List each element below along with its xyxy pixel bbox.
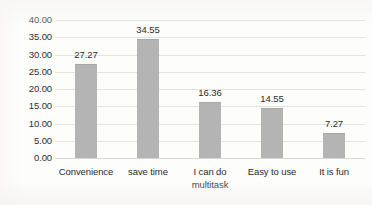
y-axis-tick-label: 40.00 — [8, 15, 52, 25]
bar-group: 16.36 — [179, 20, 241, 158]
bar — [199, 102, 221, 158]
bar — [137, 39, 159, 158]
y-axis-tick-label: 0.00 — [8, 153, 52, 163]
y-axis-tick-label: 10.00 — [8, 119, 52, 129]
y-axis-tick-label: 20.00 — [8, 84, 52, 94]
x-axis-category-labels: Conveniencesave timeI can do multitaskEa… — [55, 166, 365, 204]
bar-chart: 0.005.0010.0015.0020.0025.0030.0035.0040… — [0, 0, 372, 205]
axis-baseline — [55, 158, 365, 159]
y-axis: 0.005.0010.0015.0020.0025.0030.0035.0040… — [0, 0, 52, 205]
bar-group: 34.55 — [117, 20, 179, 158]
x-axis-tick-label: Easy to use — [241, 166, 303, 179]
y-axis-tick-label: 5.00 — [8, 136, 52, 146]
bar-value-label: 34.55 — [136, 25, 159, 35]
bar — [323, 133, 345, 158]
y-axis-tick-label: 35.00 — [8, 33, 52, 43]
bar-group: 27.27 — [55, 20, 117, 158]
bars-group: 27.2734.5516.3614.557.27 — [55, 20, 365, 158]
y-axis-tick-label: 30.00 — [8, 50, 52, 60]
y-axis-tick-label: 25.00 — [8, 67, 52, 77]
x-axis-tick-label: It is fun — [303, 166, 365, 179]
bar-value-label: 27.27 — [74, 50, 97, 60]
x-axis-tick-label: save time — [117, 166, 179, 179]
bar — [75, 64, 97, 158]
plot-area: 27.2734.5516.3614.557.27 — [55, 20, 365, 158]
x-axis-tick-label: I can do multitask — [179, 166, 241, 191]
y-axis-tick-label: 15.00 — [8, 102, 52, 112]
bar-value-label: 7.27 — [325, 119, 343, 129]
bar-group: 7.27 — [303, 20, 365, 158]
bar-group: 14.55 — [241, 20, 303, 158]
x-axis-tick-label: Convenience — [55, 166, 117, 179]
bar-value-label: 16.36 — [198, 88, 221, 98]
bar — [261, 108, 283, 158]
bar-value-label: 14.55 — [260, 94, 283, 104]
